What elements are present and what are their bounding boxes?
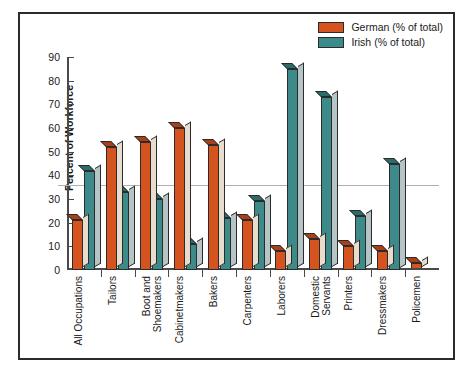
y-axis-tick [67, 199, 74, 200]
y-axis-line [67, 57, 69, 270]
bar-top-face [417, 207, 434, 213]
y-axis-tick [67, 175, 74, 176]
bar-group [208, 57, 231, 270]
bar-side-face [163, 193, 169, 267]
x-tick-label: Dressmakers [377, 276, 388, 335]
bar-side-face [400, 157, 406, 267]
plot-area: 0102030405060708090 [67, 57, 439, 270]
bar-german [106, 147, 117, 270]
bar-top-face [337, 240, 354, 246]
bar-group [377, 57, 400, 270]
bar-side-face [286, 245, 292, 267]
y-tick-label: 50 [48, 146, 60, 158]
x-tick-label: All Occupations [73, 276, 84, 345]
y-tick-label: 20 [48, 217, 60, 229]
bar-german [309, 239, 320, 270]
x-tick-label: Domestic Servants [310, 276, 332, 318]
bar-side-face [354, 240, 360, 267]
bar-side-face [151, 136, 157, 267]
bar-front-face [140, 142, 151, 270]
y-axis-tick [67, 81, 74, 82]
legend-swatch-german [318, 22, 344, 33]
bar-side-face [434, 207, 440, 267]
x-tick-label: Cabinetmakers [174, 276, 185, 343]
x-tick-label: Bakers [208, 276, 219, 307]
y-tick-label: 0 [54, 264, 60, 276]
bar-side-face [95, 164, 101, 267]
bar-side-face [185, 122, 191, 267]
bar-front-face [208, 145, 219, 270]
bar-top-face [405, 257, 422, 263]
bar-group [343, 57, 366, 270]
bar-german [242, 220, 253, 270]
bar-group [309, 57, 332, 270]
bar-front-face [174, 128, 185, 270]
bar-german [343, 246, 354, 270]
bar-group [106, 57, 129, 270]
bar-group [411, 57, 434, 270]
y-axis-tick [67, 128, 74, 129]
bar-group [242, 57, 265, 270]
y-tick-label: 30 [48, 193, 60, 205]
bar-german [208, 145, 219, 270]
chart-legend: German (% of total) Irish (% of total) [318, 22, 443, 48]
bar-front-face [72, 220, 83, 270]
bar-group [174, 57, 197, 270]
bar-top-face [269, 245, 286, 251]
y-tick-label: 90 [48, 51, 60, 63]
bar-group [140, 57, 163, 270]
bar-top-face [303, 233, 320, 239]
bar-top-face [134, 136, 151, 142]
y-axis-tick [67, 57, 74, 58]
bar-side-face [231, 211, 237, 267]
bar-top-face [236, 214, 253, 220]
bar-top-face [248, 195, 265, 201]
bar-german [275, 251, 286, 270]
bar-irish [287, 69, 298, 270]
bar-top-face [315, 91, 332, 97]
chart-figure: German (% of total) Irish (% of total) P… [18, 12, 455, 360]
bar-side-face [366, 209, 372, 267]
x-tick-label: Tailors [107, 276, 118, 305]
bar-top-face [168, 122, 185, 128]
legend-label-german: German (% of total) [351, 22, 443, 33]
bar-front-face [343, 246, 354, 270]
bar-front-face [275, 251, 286, 270]
y-axis-tick-labels: 0102030405060708090 [33, 57, 60, 270]
bar-top-face [100, 141, 117, 147]
bar-front-face [106, 147, 117, 270]
bar-front-face [242, 220, 253, 270]
bar-front-face [377, 251, 388, 270]
bar-top-face [383, 158, 400, 164]
x-tick-label: Carpenters [242, 276, 253, 325]
bar-top-face [349, 210, 366, 216]
legend-label-irish: Irish (% of total) [351, 37, 425, 48]
bar-side-face [422, 256, 428, 267]
bar-side-face [253, 214, 259, 267]
bar-side-face [388, 245, 394, 267]
y-tick-label: 70 [48, 98, 60, 110]
y-tick-label: 60 [48, 122, 60, 134]
bar-top-face [371, 245, 388, 251]
bar-front-face [287, 69, 298, 270]
bar-german [174, 128, 185, 270]
bar-top-face [202, 139, 219, 145]
bar-top-face [281, 63, 298, 69]
y-tick-label: 40 [48, 169, 60, 181]
y-axis-tick [67, 152, 74, 153]
bar-group [72, 57, 95, 270]
x-tick-label: Printers [343, 276, 354, 310]
bar-side-face [129, 185, 135, 267]
bar-group [275, 57, 298, 270]
bar-front-face [309, 239, 320, 270]
x-tick-label: Policemen [411, 276, 422, 323]
x-tick-label: Laborers [276, 276, 287, 315]
legend-entry-irish: Irish (% of total) [318, 37, 443, 48]
bar-side-face [320, 233, 326, 267]
legend-swatch-irish [318, 37, 344, 48]
x-tick-label: Boot and Shoemakers [141, 276, 163, 332]
y-tick-label: 10 [48, 240, 60, 252]
bar-side-face [298, 62, 304, 267]
bar-side-face [332, 91, 338, 267]
bar-top-face [78, 165, 95, 171]
